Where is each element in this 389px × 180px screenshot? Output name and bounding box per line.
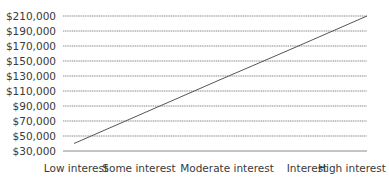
data-series (74, 16, 367, 144)
y-tick-label: $210,000 (6, 10, 56, 22)
y-tick-label: $70,000 (13, 115, 56, 127)
y-tick-label: $50,000 (13, 130, 56, 142)
x-tick-label: Some interest (102, 162, 175, 174)
x-tick-label: Low interest (44, 162, 108, 174)
y-tick-label: $110,000 (6, 85, 56, 97)
x-tick-label: High interest (318, 162, 386, 174)
y-tick-label: $30,000 (13, 145, 56, 157)
y-tick-label: $90,000 (13, 100, 56, 112)
chart-canvas: $30,000$50,000$70,000$90,000$110,000$130… (0, 0, 389, 180)
y-tick-label: $170,000 (6, 40, 56, 52)
line-chart: $30,000$50,000$70,000$90,000$110,000$130… (0, 0, 389, 180)
x-axis-labels: Low interestSome interestModerate intere… (44, 162, 386, 174)
y-axis-labels: $30,000$50,000$70,000$90,000$110,000$130… (6, 10, 56, 157)
x-tick-label: Moderate interest (180, 162, 274, 174)
y-tick-label: $150,000 (6, 55, 56, 67)
y-tick-label: $190,000 (6, 25, 56, 37)
series-line (74, 16, 367, 144)
y-tick-label: $130,000 (6, 70, 56, 82)
